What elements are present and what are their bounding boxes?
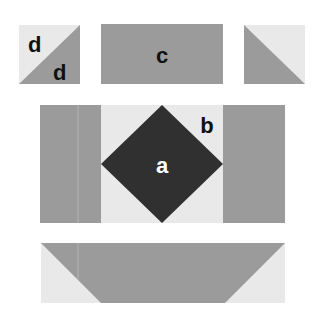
label-b: b [200,113,213,138]
quilt-block-diagram: d d c a b [0,0,327,315]
left-side-bar [40,105,101,223]
flying-geese-unit [41,243,285,303]
label-d-bottom: d [53,60,66,85]
right-side-bar [223,105,285,223]
rectangle-c: c [101,24,223,84]
label-c: c [156,43,168,68]
label-d-top: d [28,32,41,57]
half-square-triangle-d: d d [19,25,80,85]
label-a: a [156,153,169,178]
half-square-triangle-right [244,25,305,84]
center-band: a b [40,105,285,223]
